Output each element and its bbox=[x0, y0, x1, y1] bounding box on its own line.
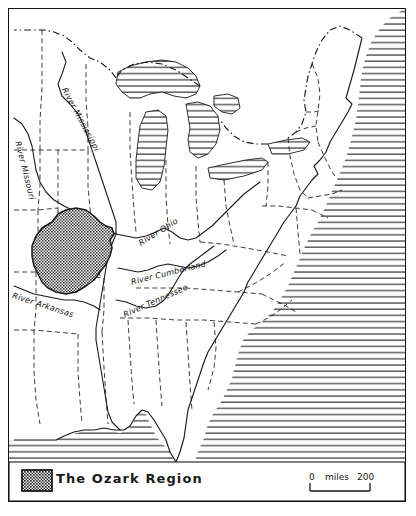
lake-superior bbox=[116, 60, 200, 98]
lake-ontario bbox=[268, 138, 310, 154]
scale-zero-label: 0 bbox=[309, 472, 315, 482]
scale-max-label: 200 bbox=[357, 472, 374, 482]
ozark-region-swatch bbox=[22, 470, 52, 491]
ozark-region-map-figure: The Ozark Region 0 miles 200 River Missi… bbox=[0, 0, 416, 516]
ohio-river bbox=[116, 182, 260, 240]
lake-erie bbox=[208, 158, 268, 180]
georgian-bay bbox=[214, 94, 240, 114]
ozark-region-area bbox=[32, 208, 114, 294]
great-lakes-water bbox=[116, 60, 310, 190]
legend-label: The Ozark Region bbox=[56, 471, 203, 486]
map-canvas bbox=[0, 0, 416, 516]
scale-unit-label: miles bbox=[325, 472, 349, 482]
lake-huron bbox=[186, 102, 220, 158]
lake-michigan bbox=[136, 110, 168, 190]
